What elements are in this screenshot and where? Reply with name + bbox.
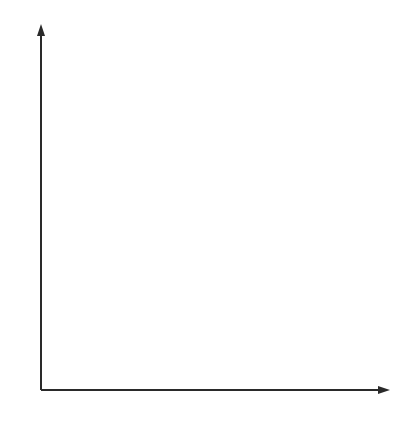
y-axis-arrow-icon bbox=[37, 24, 45, 36]
x-axis-arrow-icon bbox=[378, 386, 390, 394]
axes bbox=[37, 24, 390, 394]
chart-canvas bbox=[0, 0, 401, 430]
